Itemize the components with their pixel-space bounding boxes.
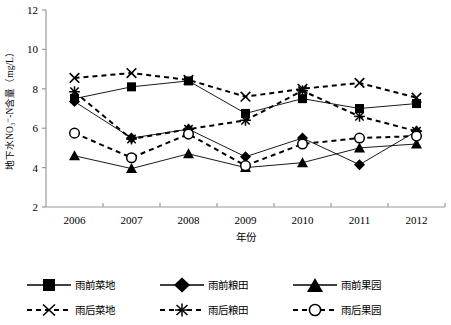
legend-symbol-filled-triangle bbox=[292, 276, 338, 294]
legend-symbol-filled-diamond bbox=[159, 276, 205, 294]
legend-row-pre-rain: 雨前菜地 雨前粮田 雨前果园 bbox=[0, 272, 451, 297]
svg-text:2009: 2009 bbox=[235, 214, 258, 226]
svg-text:2006: 2006 bbox=[64, 214, 87, 226]
svg-text:8: 8 bbox=[33, 83, 39, 95]
legend-label-post-orchard: 雨后果园 bbox=[338, 302, 381, 317]
svg-text:2: 2 bbox=[33, 201, 39, 213]
svg-text:地下水NO₃⁻-N含量（mg/L）: 地下水NO₃⁻-N含量（mg/L） bbox=[4, 47, 15, 170]
legend-symbol-asterisk bbox=[159, 301, 205, 319]
legend-label-post-vegetable: 雨后菜地 bbox=[72, 302, 115, 317]
svg-text:2008: 2008 bbox=[178, 214, 201, 226]
legend-item-post-grain[interactable]: 雨后粮田 bbox=[159, 301, 292, 319]
svg-text:4: 4 bbox=[33, 162, 39, 174]
svg-text:年份: 年份 bbox=[236, 231, 257, 243]
legend-label-pre-vegetable: 雨前菜地 bbox=[72, 277, 115, 292]
legend-item-pre-orchard[interactable]: 雨前果园 bbox=[292, 276, 425, 294]
svg-text:2010: 2010 bbox=[292, 214, 315, 226]
svg-text:10: 10 bbox=[27, 43, 39, 55]
legend-item-post-orchard[interactable]: 雨后果园 bbox=[292, 301, 425, 319]
svg-text:2007: 2007 bbox=[121, 214, 144, 226]
legend-item-post-vegetable[interactable]: 雨后菜地 bbox=[26, 301, 159, 319]
svg-text:12: 12 bbox=[27, 4, 38, 16]
legend-label-post-grain: 雨后粮田 bbox=[205, 302, 248, 317]
legend-item-pre-grain[interactable]: 雨前粮田 bbox=[159, 276, 292, 294]
chart-legend: 雨前菜地 雨前粮田 雨前果园 bbox=[0, 272, 451, 325]
legend-label-pre-grain: 雨前粮田 bbox=[205, 277, 248, 292]
legend-label-pre-orchard: 雨前果园 bbox=[338, 277, 381, 292]
svg-text:2012: 2012 bbox=[406, 214, 428, 226]
legend-row-post-rain: 雨后菜地 雨后粮田 雨后果 bbox=[0, 297, 451, 322]
plot-area: 246810122006200720082009201020112012年份地下… bbox=[0, 0, 451, 270]
line-chart-svg: 246810122006200720082009201020112012年份地下… bbox=[0, 0, 451, 270]
legend-symbol-open-circle bbox=[292, 301, 338, 319]
svg-text:2011: 2011 bbox=[349, 214, 371, 226]
svg-text:6: 6 bbox=[33, 122, 39, 134]
chart-figure: 246810122006200720082009201020112012年份地下… bbox=[0, 0, 451, 325]
legend-symbol-cross-x bbox=[26, 301, 72, 319]
legend-symbol-filled-square bbox=[26, 276, 72, 294]
legend-item-pre-vegetable[interactable]: 雨前菜地 bbox=[26, 276, 159, 294]
